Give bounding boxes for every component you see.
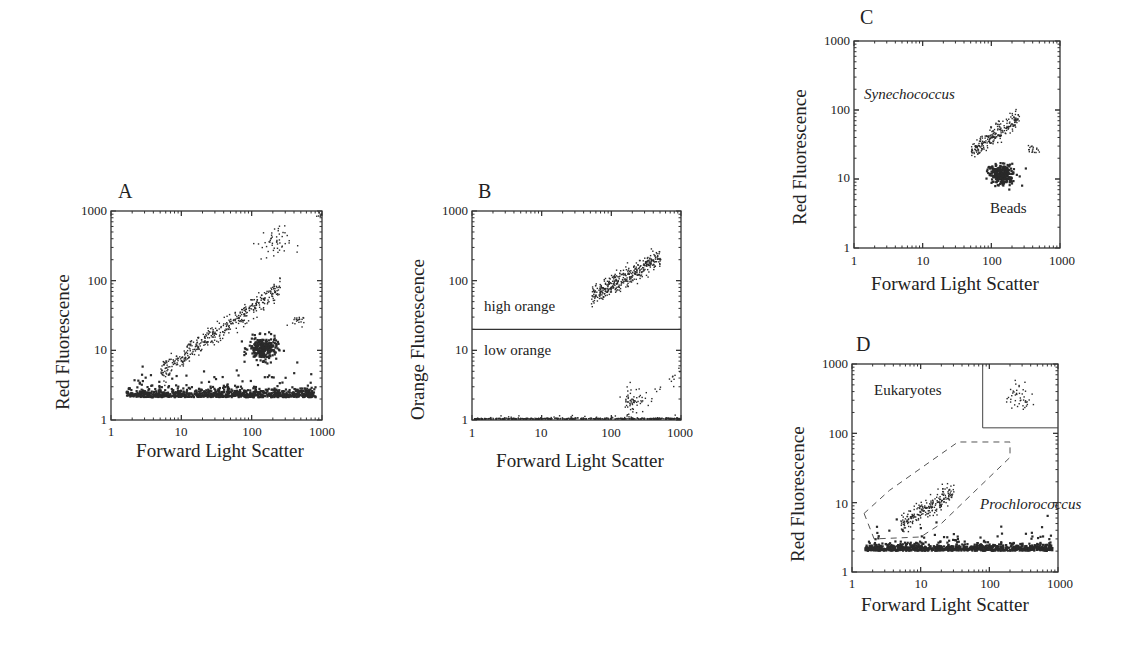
y-tick: 1000 [67,203,107,219]
x-tick: 10 [901,576,941,592]
x-axis-label: Forward Light Scatter [825,594,1065,616]
x-tick: 1000 [1042,253,1082,269]
x-tick: 10 [903,253,943,269]
prochlorococcus-label: Prochlorococcus [980,496,1081,513]
y-tick: 100 [428,273,468,289]
high-orange-label: high orange [484,298,555,315]
y-tick: 10 [67,342,107,358]
y-axis-label: Red Fluorescence [787,426,809,562]
x-tick: 1000 [660,425,700,441]
eukaryotes-label: Eukaryotes [874,382,941,399]
x-tick: 1 [91,424,131,440]
y-tick: 100 [67,273,107,289]
scatter-plot-c [854,41,1060,248]
x-tick: 1 [832,576,872,592]
scatter-plot-a [111,211,322,420]
y-axis-label: Red Fluorescence [789,89,811,225]
x-tick: 1000 [1040,576,1080,592]
y-tick: 100 [810,102,850,118]
x-tick: 10 [161,424,201,440]
x-axis-label: Forward Light Scatter [460,450,700,472]
y-tick: 1000 [810,33,850,49]
y-tick: 100 [808,426,848,442]
x-axis-label: Forward Light Scatter [100,440,340,462]
beads-label: Beads [990,200,1027,217]
x-tick: 100 [970,576,1010,592]
x-tick: 100 [232,424,272,440]
x-tick: 100 [591,425,631,441]
panel-letter: A [118,180,132,203]
low-orange-label: low orange [484,342,551,359]
y-tick: 10 [428,342,468,358]
y-tick: 1000 [428,203,468,219]
x-tick: 100 [972,253,1012,269]
x-tick: 1 [452,425,492,441]
x-tick: 1 [834,253,874,269]
panel-letter: B [478,180,491,203]
scatter-plot-b [472,211,681,420]
y-tick: 1000 [808,356,848,372]
x-axis-label: Forward Light Scatter [835,273,1075,295]
y-axis-label: Orange Fluorescence [407,259,429,420]
x-tick: 10 [521,425,561,441]
panel-letter: C [860,6,873,29]
synechococcus-label: Synechococcus [864,86,955,103]
panel-letter: D [856,333,870,356]
y-tick: 10 [808,496,848,512]
x-tick: 1000 [302,424,342,440]
y-tick: 10 [810,170,850,186]
